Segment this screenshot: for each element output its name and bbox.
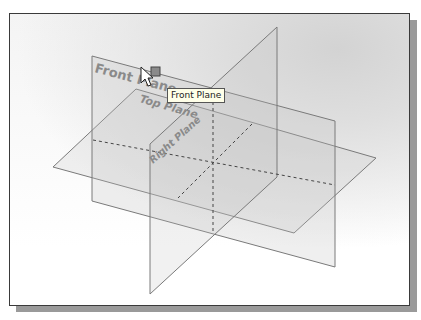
tooltip: Front Plane [167,88,225,103]
cropped-caption-text [0,0,240,2]
graphics-viewport[interactable]: Front Plane Top Plane Right Plane Front … [9,13,410,306]
right-plane[interactable] [150,27,277,294]
tooltip-text: Front Plane [171,90,221,100]
plane-select-square-icon [151,67,160,76]
